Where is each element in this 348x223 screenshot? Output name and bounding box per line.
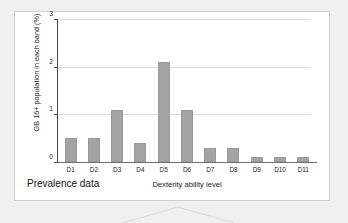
y-axis-tick-label: 3 xyxy=(49,11,53,18)
y-axis-tick-label: 1 xyxy=(49,106,53,113)
bar xyxy=(158,62,170,162)
x-axis-tick-label: D10 xyxy=(268,166,291,173)
bar xyxy=(204,148,216,162)
bar-slot xyxy=(152,20,175,162)
x-axis-tick-label: D7 xyxy=(199,166,222,173)
bar xyxy=(134,143,146,162)
x-axis-tick-label: D5 xyxy=(152,166,175,173)
x-axis-tick-label: D4 xyxy=(129,166,152,173)
x-axis-tick-label: D11 xyxy=(292,166,315,173)
callout-connector-lines xyxy=(14,201,330,223)
y-axis-tick-label: 2 xyxy=(49,58,53,65)
x-axis-tick-label: D3 xyxy=(106,166,129,173)
bar-slot xyxy=(292,20,315,162)
y-axis-tick-mark xyxy=(54,67,58,68)
bar xyxy=(227,148,239,162)
x-axis-tick-label: D1 xyxy=(59,166,82,173)
figure-container: GB 16+ population in each band (%) 3210 … xyxy=(0,0,348,223)
bar-slot xyxy=(199,20,222,162)
y-axis-tick-mark xyxy=(54,162,58,163)
y-axis-tick-label: 0 xyxy=(49,154,53,161)
x-axis-tick-label: D8 xyxy=(222,166,245,173)
bar-slot xyxy=(129,20,152,162)
bar-slot xyxy=(106,20,129,162)
bar-group xyxy=(59,20,315,162)
bar xyxy=(65,138,77,162)
bar xyxy=(274,157,286,162)
x-axis-tick-label: D2 xyxy=(82,166,105,173)
plot-area: 3210 xyxy=(57,20,317,163)
bar-slot xyxy=(59,20,82,162)
bar xyxy=(111,110,123,162)
x-axis-tick-group: D1D2D3D4D5D6D7D8D9D10D11 xyxy=(59,166,315,173)
bar-slot xyxy=(268,20,291,162)
bar-slot xyxy=(222,20,245,162)
x-axis-tick-label: D6 xyxy=(175,166,198,173)
y-axis-title: GB 16+ population in each band (%) xyxy=(32,0,41,148)
chart-caption: Prevalence data xyxy=(27,178,99,189)
bar xyxy=(251,157,263,162)
bar-slot xyxy=(245,20,268,162)
y-axis-tick-mark xyxy=(54,114,58,115)
bar-slot xyxy=(82,20,105,162)
bar xyxy=(181,110,193,162)
y-axis-tick-mark xyxy=(54,19,58,20)
x-axis-tick-label: D9 xyxy=(245,166,268,173)
bar xyxy=(297,157,309,162)
bar-slot xyxy=(175,20,198,162)
bar xyxy=(88,138,100,162)
chart-panel: GB 16+ population in each band (%) 3210 … xyxy=(14,11,330,201)
